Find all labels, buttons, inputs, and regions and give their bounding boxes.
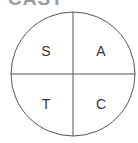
cast-circle — [0, 0, 138, 143]
quadrant-t: T — [36, 96, 56, 112]
quadrant-s: S — [36, 43, 56, 59]
quadrant-a: A — [91, 43, 111, 59]
quadrant-c: C — [91, 96, 111, 112]
